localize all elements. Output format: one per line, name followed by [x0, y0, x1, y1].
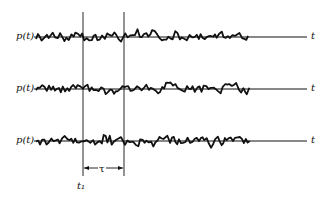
record-2-ylabel: p(t): [16, 82, 34, 93]
random-process-diagram: [0, 0, 325, 198]
waveform-2: [36, 83, 249, 95]
t1-label: t₁: [77, 180, 85, 191]
record-3-ylabel: p(t): [16, 134, 34, 145]
arrow-left-icon: [84, 166, 89, 170]
tau-label: τ: [98, 163, 106, 174]
record-3-time-label: t: [311, 134, 315, 145]
record-1-ylabel: p(t): [16, 30, 34, 41]
time-axes: [34, 37, 307, 141]
waveform-1: [36, 29, 248, 41]
arrow-right-icon: [118, 166, 123, 170]
record-1-time-label: t: [311, 30, 315, 41]
record-2-time-label: t: [311, 82, 315, 93]
